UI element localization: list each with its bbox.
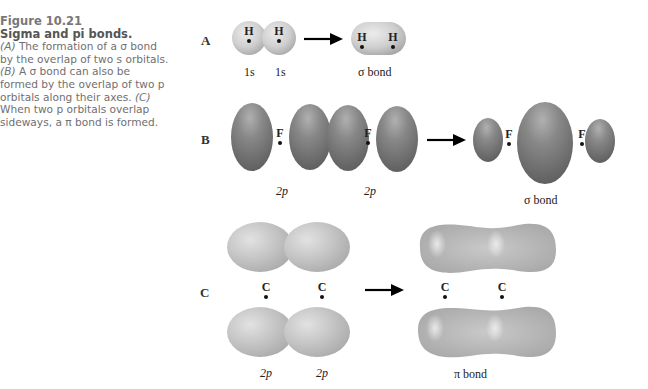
- label-sigma-bond-b: σ bond: [524, 193, 557, 208]
- atom-h-2: H: [272, 25, 286, 43]
- atom-c-1: C: [259, 281, 273, 299]
- arrow-c: [391, 284, 404, 296]
- arrow-a: [330, 33, 343, 45]
- panel-letter-b: B: [201, 132, 210, 148]
- atom-h-4: H: [386, 31, 400, 49]
- atom-c-4: C: [495, 281, 509, 299]
- panel-a-shapes: [232, 21, 406, 55]
- label-2p-c-left: 2p: [260, 366, 272, 381]
- atom-h-3: H: [355, 31, 369, 49]
- label-2p-c-right: 2p: [316, 366, 328, 381]
- label-1s-right: 1s: [275, 65, 286, 80]
- atom-f-2: F: [361, 127, 375, 145]
- label-1s-left: 1s: [244, 65, 255, 80]
- atom-f-1: F: [273, 127, 287, 145]
- panel-letter-c: C: [200, 285, 209, 301]
- label-2p-b-left: 2p: [276, 184, 288, 199]
- arrow-b: [453, 134, 466, 146]
- atom-f-4: F: [575, 128, 589, 146]
- panel-b-shapes: [231, 102, 615, 184]
- atom-c-2: C: [315, 281, 329, 299]
- atom-c-3: C: [438, 281, 452, 299]
- label-sigma-bond-a: σ bond: [358, 65, 391, 80]
- label-pi-bond: π bond: [454, 367, 487, 382]
- label-2p-b-right: 2p: [364, 184, 376, 199]
- atom-h-1: H: [242, 25, 256, 43]
- panel-letter-a: A: [201, 33, 210, 49]
- atom-f-3: F: [502, 128, 516, 146]
